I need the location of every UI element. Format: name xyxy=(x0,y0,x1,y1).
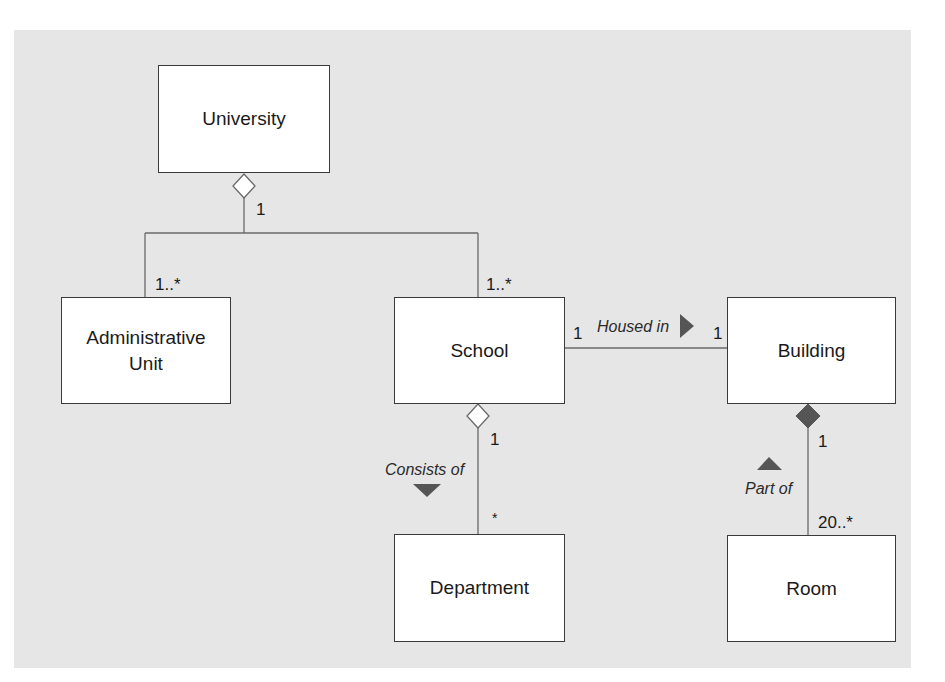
hollow-diamond-icon xyxy=(467,404,489,428)
class-admin-unit-label-line2: Unit xyxy=(129,351,163,377)
class-department-label: Department xyxy=(430,575,529,601)
role-housed-in: Housed in xyxy=(597,318,669,336)
multiplicity-university: 1 xyxy=(256,200,265,220)
class-university-label: University xyxy=(202,106,285,132)
arrow-right-icon xyxy=(680,314,694,338)
class-room-label: Room xyxy=(786,576,837,602)
arrow-up-icon xyxy=(757,457,782,470)
hollow-diamond-icon xyxy=(233,174,255,198)
multiplicity-building-part: 1 xyxy=(818,432,827,452)
class-school: School xyxy=(394,297,565,404)
class-room: Room xyxy=(727,535,896,642)
class-university: University xyxy=(158,65,330,173)
filled-diamond-icon xyxy=(796,404,820,428)
class-school-label: School xyxy=(450,338,508,364)
arrow-down-icon xyxy=(413,484,441,497)
multiplicity-admin-unit: 1..* xyxy=(155,275,181,295)
class-building-label: Building xyxy=(778,338,846,364)
multiplicity-building-housed: 1 xyxy=(713,324,722,344)
role-part-of: Part of xyxy=(745,480,792,498)
multiplicity-school-housed: 1 xyxy=(573,324,582,344)
class-admin-unit-label-line1: Administrative xyxy=(86,325,205,351)
multiplicity-school-consists: 1 xyxy=(490,430,499,450)
class-department: Department xyxy=(394,534,565,642)
multiplicity-school-top: 1..* xyxy=(486,275,512,295)
class-administrative-unit: Administrative Unit xyxy=(61,297,231,404)
multiplicity-room: 20..* xyxy=(818,513,853,533)
class-building: Building xyxy=(727,297,896,404)
multiplicity-department: * xyxy=(492,510,497,526)
role-consists-of: Consists of xyxy=(385,461,464,479)
